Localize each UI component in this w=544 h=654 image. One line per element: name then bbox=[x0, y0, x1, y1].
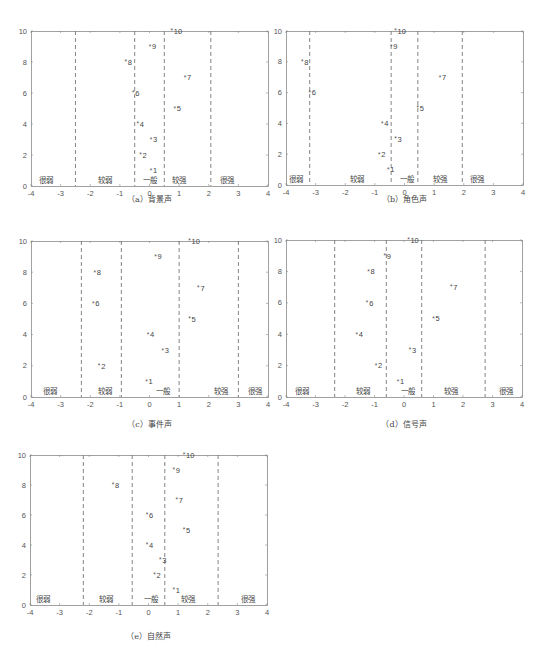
chart-caption: （d）信号声 bbox=[286, 418, 522, 429]
x-tick-label: -2 bbox=[86, 608, 93, 617]
point-label: 4 bbox=[359, 330, 363, 339]
point-label: 9 bbox=[157, 252, 161, 261]
x-tick-label: 2 bbox=[461, 400, 465, 409]
plot-area bbox=[287, 241, 523, 398]
y-tick-label: 0 bbox=[278, 393, 282, 402]
point-label: 5 bbox=[191, 315, 195, 324]
region-label: 较弱 bbox=[350, 174, 364, 184]
x-tick-label: -1 bbox=[116, 608, 123, 617]
x-tick-label: 0 bbox=[402, 400, 406, 409]
region-label: 较强 bbox=[433, 174, 448, 184]
region-label: 较弱 bbox=[99, 594, 113, 604]
region-label: 很弱 bbox=[43, 387, 57, 396]
x-tick-label: 2 bbox=[206, 608, 210, 617]
y-tick-label: 2 bbox=[22, 571, 26, 580]
chart-caption: （b）角色声 bbox=[286, 193, 523, 204]
point-label: 10 bbox=[174, 27, 182, 36]
region-label: 很弱 bbox=[289, 175, 303, 184]
x-tick-label: -4 bbox=[27, 608, 34, 617]
point-label: 6 bbox=[369, 299, 373, 308]
point-label: 2 bbox=[101, 362, 105, 371]
point-label: 6 bbox=[135, 89, 139, 98]
x-tick-label: 2 bbox=[207, 400, 211, 409]
region-label: 一般 bbox=[156, 386, 171, 396]
y-tick-label: 8 bbox=[23, 268, 27, 277]
point-label: 6 bbox=[95, 299, 99, 308]
point-label: 7 bbox=[442, 73, 446, 82]
point-label: 7 bbox=[179, 496, 183, 505]
y-tick-label: 2 bbox=[23, 151, 27, 160]
y-tick-label: 4 bbox=[278, 119, 282, 128]
region-label: 一般 bbox=[144, 594, 159, 604]
x-tick-label: 3 bbox=[236, 400, 240, 409]
y-tick-label: 8 bbox=[278, 57, 282, 66]
y-tick-label: 0 bbox=[23, 393, 27, 402]
point-label: 5 bbox=[177, 104, 181, 113]
region-label: 很弱 bbox=[39, 176, 53, 185]
chart-caption: （e）自然声 bbox=[30, 630, 267, 641]
x-tick-label: 3 bbox=[235, 608, 239, 617]
y-tick-label: 10 bbox=[274, 236, 282, 245]
x-tick-label: 1 bbox=[176, 608, 180, 617]
point-label: 3 bbox=[153, 135, 157, 144]
point-label: 8 bbox=[371, 267, 375, 276]
y-tick-label: 2 bbox=[278, 361, 282, 370]
point-label: 4 bbox=[150, 330, 154, 339]
y-tick-label: 8 bbox=[22, 481, 26, 490]
point-label: 8 bbox=[97, 268, 101, 277]
scatter-plot: -4-3-2-1012340246810很弱较弱一般较强很强*1*2*3*4*5… bbox=[262, 234, 530, 417]
y-tick-label: 10 bbox=[18, 451, 26, 460]
point-label: 3 bbox=[162, 556, 166, 565]
point-label: 10 bbox=[186, 451, 194, 460]
region-label: 较强 bbox=[172, 175, 187, 185]
x-tick-label: 0 bbox=[147, 400, 151, 409]
point-label: 2 bbox=[381, 150, 385, 159]
point-label: 2 bbox=[143, 151, 147, 160]
point-label: 2 bbox=[156, 571, 160, 580]
point-label: 4 bbox=[384, 119, 388, 128]
point-label: 2 bbox=[378, 361, 382, 370]
chart-caption: （c）事件声 bbox=[31, 418, 268, 429]
y-tick-label: 0 bbox=[22, 601, 26, 610]
point-label: 7 bbox=[200, 284, 204, 293]
y-tick-label: 6 bbox=[23, 89, 27, 98]
region-label: 一般 bbox=[400, 174, 415, 184]
region-label: 一般 bbox=[401, 386, 416, 396]
y-tick-label: 4 bbox=[22, 541, 26, 550]
point-label: 6 bbox=[312, 88, 316, 97]
point-label: 9 bbox=[393, 42, 397, 51]
chart-panel-c: -4-3-2-1012340246810很弱较弱一般较强很强*1*2*3*4*5… bbox=[7, 235, 276, 417]
y-tick-label: 4 bbox=[23, 330, 27, 339]
region-label: 较弱 bbox=[356, 386, 370, 396]
chart-panel-d: -4-3-2-1012340246810很弱较弱一般较强很强*1*2*3*4*5… bbox=[262, 234, 530, 417]
chart-panel-e: -4-3-2-1012340246810很弱较弱一般较强很强*1*2*3*4*5… bbox=[6, 449, 275, 625]
x-tick-label: -3 bbox=[57, 400, 64, 409]
point-label: 10 bbox=[410, 236, 418, 245]
x-tick-label: 4 bbox=[520, 400, 524, 409]
point-label: 8 bbox=[304, 58, 308, 67]
x-tick-label: -3 bbox=[56, 608, 63, 617]
x-tick-label: 0 bbox=[146, 608, 150, 617]
region-label: 较弱 bbox=[98, 386, 112, 396]
region-label: 很强 bbox=[241, 595, 256, 604]
y-tick-label: 6 bbox=[278, 88, 282, 97]
y-tick-label: 10 bbox=[19, 27, 27, 36]
point-label: 10 bbox=[398, 27, 406, 36]
point-label: 1 bbox=[176, 586, 180, 595]
point-label: 7 bbox=[187, 73, 191, 82]
y-tick-label: 6 bbox=[23, 299, 27, 308]
plot-area bbox=[287, 32, 524, 186]
y-tick-label: 8 bbox=[23, 58, 27, 67]
point-label: 10 bbox=[191, 237, 199, 246]
y-tick-label: 6 bbox=[278, 298, 282, 307]
x-tick-label: 3 bbox=[490, 400, 494, 409]
region-label: 较强 bbox=[214, 386, 229, 396]
plot-area bbox=[32, 242, 269, 398]
y-tick-label: 6 bbox=[22, 511, 26, 520]
point-label: 3 bbox=[412, 346, 416, 355]
point-label: 5 bbox=[186, 526, 190, 535]
y-tick-label: 10 bbox=[274, 27, 282, 36]
point-label: 1 bbox=[400, 377, 404, 386]
point-label: 8 bbox=[115, 481, 119, 490]
chart-panel-a: -4-3-2-1012340246810很弱较弱一般较强很强*1*2*3*4*5… bbox=[7, 25, 276, 206]
